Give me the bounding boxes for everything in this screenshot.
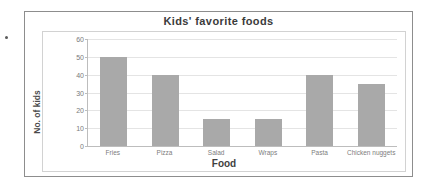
bar-slot (191, 39, 243, 146)
chart-title: Kids' favorite foods (25, 15, 412, 27)
y-axis-tick-label: 40 (76, 71, 84, 78)
y-axis-tick-label: 10 (76, 125, 84, 132)
bar-slot (243, 39, 295, 146)
bar (152, 75, 179, 146)
bar-slot (140, 39, 192, 146)
y-axis-tick-label: 0 (80, 143, 84, 150)
y-axis-tick-label: 20 (76, 107, 84, 114)
x-axis-tick-label: Pizza (139, 149, 191, 157)
y-axis-tick-mark (85, 146, 88, 147)
x-axis-title: Food (43, 158, 405, 169)
bar-slot (88, 39, 140, 146)
bar (358, 84, 385, 146)
x-axis-tick-label: Fries (87, 149, 139, 157)
x-axis-tick-label: Salad (190, 149, 242, 157)
plot-frame: No. of kids 0102030405060 FriesPizzaSala… (42, 31, 406, 172)
x-axis-tick-label: Pasta (294, 149, 346, 157)
bar-series (88, 39, 397, 146)
plot-area: 0102030405060 (87, 39, 397, 147)
y-axis-tick-label: 30 (76, 89, 84, 96)
bar-slot (294, 39, 346, 146)
y-axis-tick-label: 50 (76, 53, 84, 60)
y-axis-tick-label: 60 (76, 36, 84, 43)
bar (203, 119, 230, 146)
bar (255, 119, 282, 146)
bar (306, 75, 333, 146)
bar-slot (346, 39, 398, 146)
x-axis-tick-labels: FriesPizzaSaladWrapsPastaChicken nuggets (87, 149, 397, 157)
y-axis-title: No. of kids (32, 72, 42, 152)
chart-frame: Kids' favorite foods No. of kids 0102030… (24, 11, 413, 177)
x-axis-tick-label: Chicken nuggets (345, 149, 397, 157)
x-axis-tick-label: Wraps (242, 149, 294, 157)
bar (100, 57, 127, 146)
scan-artifact-dot (5, 36, 8, 39)
